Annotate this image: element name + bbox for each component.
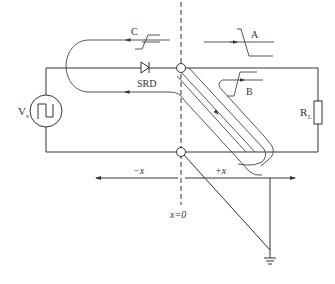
wave-c-label: C [131, 26, 138, 37]
voltage-source: V s [18, 95, 62, 127]
transmission-line-stub [177, 68, 273, 166]
circuit-diagram: V s R L SRD C A B [0, 0, 335, 284]
circuit-wires [46, 68, 318, 152]
stub-return-path [170, 92, 262, 175]
load-label: R [300, 106, 308, 118]
wave-b: B [219, 72, 264, 136]
srd-label: SRD [137, 78, 156, 89]
ground-wiring [184, 155, 270, 258]
srd-diode: SRD [137, 62, 156, 89]
neg-x-label: −x [133, 165, 145, 176]
wave-a: A [204, 29, 274, 56]
load-resistor: R L [300, 101, 322, 124]
x-axis: −x +x x=0 [96, 165, 295, 220]
ground-icon [264, 258, 276, 264]
source-subscript: s [26, 112, 29, 120]
source-label: V [18, 105, 26, 117]
wave-a-label: A [251, 29, 259, 40]
node-top [177, 64, 186, 73]
origin-label: x=0 [169, 209, 186, 220]
pos-x-label: +x [215, 165, 227, 176]
load-subscript: L [308, 114, 312, 120]
wave-b-label: B [246, 86, 253, 97]
